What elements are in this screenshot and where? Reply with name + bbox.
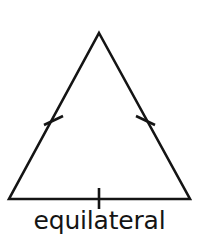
- triangle-figure: [0, 0, 199, 239]
- figure-root: equilateral: [0, 0, 199, 239]
- triangle-outline: [9, 33, 190, 199]
- figure-caption: equilateral: [0, 208, 199, 233]
